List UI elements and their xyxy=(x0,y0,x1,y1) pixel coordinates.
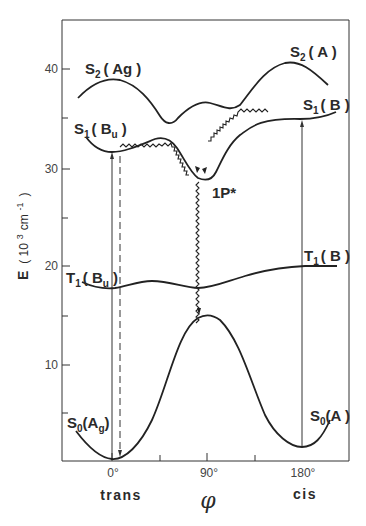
label-s1-bu: S1( Bu ) xyxy=(74,120,127,140)
state-labels: S2( Ag ) S2( A ) S1( Bu ) S1( B ) 1P* T1… xyxy=(66,43,350,434)
transition-arrows xyxy=(110,120,304,460)
x-category-cis: cis xyxy=(293,486,317,502)
x-tick-180: 180° xyxy=(291,466,316,480)
s0-curve xyxy=(76,315,330,459)
label-s2-a: S2( A ) xyxy=(290,43,337,63)
y-tick-30: 30 xyxy=(45,162,59,176)
x-tick-90: 90° xyxy=(200,466,218,480)
arrow-head-up-icon xyxy=(300,120,304,127)
y-tick-10: 10 xyxy=(45,358,59,372)
y-tick-40: 40 xyxy=(45,62,59,76)
potential-energy-diagram: 40 30 20 10 E ( 10 3 cm -1 ) 0° 90° 180°… xyxy=(0,0,366,526)
wavy-decay-line xyxy=(196,182,199,323)
label-s0-ag: S0(Ag) xyxy=(67,414,110,434)
x-axis-ticks xyxy=(112,453,255,461)
label-s0-a: S0(A ) xyxy=(310,407,350,427)
y-axis-ticks xyxy=(62,69,70,413)
x-axis-symbol-phi: φ xyxy=(200,488,216,513)
svg-text:E ( 10 3 cm: E ( 10 3 cm -1 ) xyxy=(10,192,31,280)
y-axis-label: E ( 10 3 cm -1 ) xyxy=(10,192,31,280)
label-t1-b: T1( B ) xyxy=(304,247,350,267)
label-s1-b: S1( B ) xyxy=(303,96,350,116)
y-tick-20: 20 xyxy=(45,259,59,273)
arrow-head-down-icon xyxy=(197,308,201,315)
relaxation-wavy-lines xyxy=(120,109,268,175)
arrow-head-icon xyxy=(202,167,207,174)
arrow-head-down-icon xyxy=(118,450,122,457)
arrow-head-icon xyxy=(195,166,200,173)
plot-frame xyxy=(62,20,349,461)
label-s2-ag: S2( Ag ) xyxy=(85,60,141,80)
x-tick-0: 0° xyxy=(107,466,119,480)
y-axis-tick-labels: 40 30 20 10 xyxy=(45,62,59,372)
label-1p-star: 1P* xyxy=(212,184,236,201)
x-category-trans: trans xyxy=(100,487,142,503)
x-axis-tick-labels: 0° 90° 180° trans cis φ xyxy=(100,466,317,513)
arrow-head-up-icon xyxy=(110,152,114,159)
